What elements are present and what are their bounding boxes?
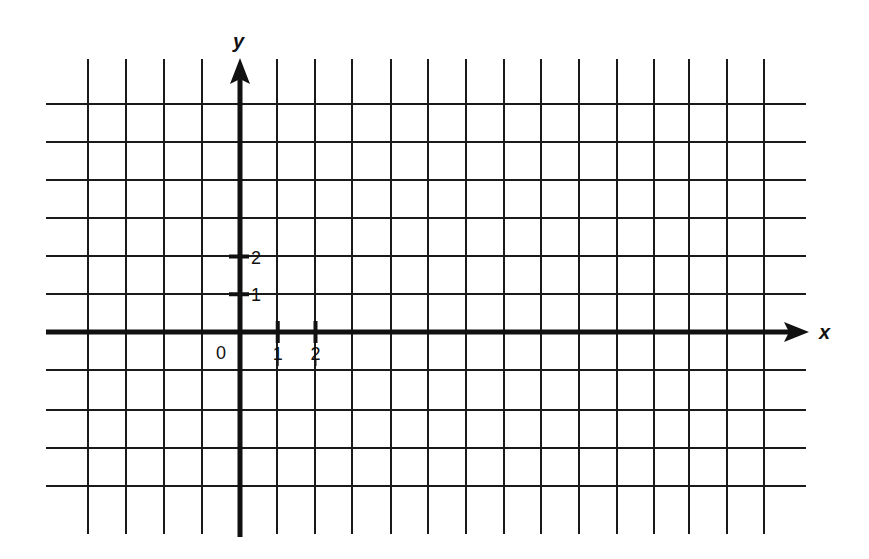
x-tick-label: 2 xyxy=(310,344,320,364)
x-axis-label: x xyxy=(818,321,831,343)
origin-label: 0 xyxy=(216,343,226,363)
y-tick-label: 2 xyxy=(251,248,261,268)
y-tick-label: 1 xyxy=(251,285,261,305)
y-axis-label: y xyxy=(232,30,245,52)
grid-lines xyxy=(46,59,806,534)
tick-marks: 1212 xyxy=(229,248,321,367)
x-tick-label: 1 xyxy=(273,344,283,364)
coordinate-plane: 1212 x y 0 xyxy=(0,0,869,559)
